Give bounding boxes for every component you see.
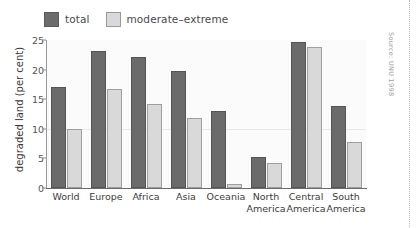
source-note: Source: UNU 1998 bbox=[387, 32, 395, 112]
bar-group bbox=[206, 40, 246, 188]
bar bbox=[331, 106, 346, 188]
x-tick-label-line: Central bbox=[286, 191, 326, 203]
x-tick-label: Oceania bbox=[206, 191, 246, 214]
bar bbox=[67, 129, 82, 188]
bar-group bbox=[286, 40, 326, 188]
x-tick-label: NorthAmerica bbox=[246, 191, 286, 214]
chart-legend: total moderate–extreme bbox=[44, 10, 228, 28]
y-tick-label: 10 bbox=[20, 123, 44, 134]
legend-label-moderate-extreme: moderate–extreme bbox=[127, 13, 229, 25]
bar bbox=[131, 57, 146, 188]
bar bbox=[107, 89, 122, 188]
bar-group bbox=[166, 40, 206, 188]
bar bbox=[267, 163, 282, 188]
x-tick-label-line: Europe bbox=[86, 191, 126, 203]
bar bbox=[347, 142, 362, 188]
x-tick-label-line: Africa bbox=[126, 191, 166, 203]
x-tick-label-line: Asia bbox=[166, 191, 206, 203]
legend-swatch-moderate-extreme-icon bbox=[106, 12, 121, 27]
y-tick-label: 0 bbox=[20, 183, 44, 194]
bar bbox=[307, 47, 322, 188]
bar-group bbox=[246, 40, 286, 188]
x-tick-label-line: North bbox=[246, 191, 286, 203]
x-tick-label-line: America bbox=[286, 203, 326, 215]
x-tick-label: SouthAmerica bbox=[326, 191, 366, 214]
bar bbox=[91, 51, 106, 188]
bar-group bbox=[46, 40, 86, 188]
x-tick-label-line: America bbox=[246, 203, 286, 215]
bar bbox=[51, 87, 66, 188]
x-tick-label-line: South bbox=[326, 191, 366, 203]
bar bbox=[227, 184, 242, 188]
x-axis-labels: WorldEuropeAfricaAsiaOceaniaNorthAmerica… bbox=[46, 191, 366, 214]
bar bbox=[291, 42, 306, 188]
x-tick-label: Africa bbox=[126, 191, 166, 214]
legend-item-moderate-extreme: moderate–extreme bbox=[106, 12, 229, 27]
bar-group bbox=[86, 40, 126, 188]
bar bbox=[171, 71, 186, 188]
x-tick-label-line: World bbox=[46, 191, 86, 203]
bar bbox=[147, 104, 162, 188]
x-tick-label: World bbox=[46, 191, 86, 214]
legend-label-total: total bbox=[65, 13, 90, 25]
bar-chart: total moderate–extreme degraded land (pe… bbox=[0, 0, 416, 228]
x-tick-label-line: Oceania bbox=[206, 191, 246, 203]
bar bbox=[187, 118, 202, 188]
x-axis-line bbox=[46, 188, 367, 189]
x-tick-label: CentralAmerica bbox=[286, 191, 326, 214]
x-tick-label-line: America bbox=[326, 203, 366, 215]
bar-group bbox=[126, 40, 166, 188]
bar bbox=[251, 157, 266, 188]
bar bbox=[211, 111, 226, 188]
legend-item-total: total bbox=[44, 12, 90, 27]
y-tick-label: 5 bbox=[20, 153, 44, 164]
legend-swatch-total-icon bbox=[44, 12, 59, 27]
bar-groups bbox=[46, 40, 366, 188]
right-dotted-rule bbox=[409, 0, 410, 228]
y-tick-label: 15 bbox=[20, 94, 44, 105]
x-tick-label: Europe bbox=[86, 191, 126, 214]
y-tick-label: 20 bbox=[20, 64, 44, 75]
x-tick-label: Asia bbox=[166, 191, 206, 214]
bar-group bbox=[326, 40, 366, 188]
y-tick-label: 25 bbox=[20, 35, 44, 46]
